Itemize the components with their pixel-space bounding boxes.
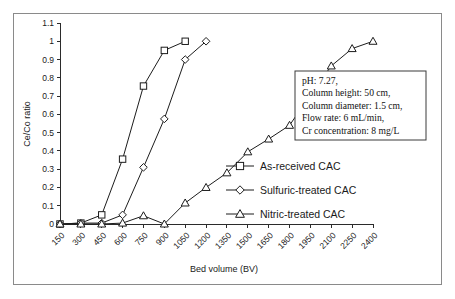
x-tick-label: 2100 — [317, 230, 338, 251]
annotation-line: Flow rate: 6 mL/min, — [302, 112, 384, 123]
y-tick-label: 0.7 — [42, 91, 54, 101]
x-tick-label: 1200 — [192, 230, 213, 251]
legend-item-1: As-received CAC — [226, 160, 341, 172]
y-tick-label: 0.9 — [42, 55, 54, 65]
y-tick-label: 0.4 — [42, 146, 54, 156]
y-tick-label: 0.3 — [42, 164, 54, 174]
legend-marker — [236, 186, 244, 194]
x-tick-label: 600 — [112, 230, 129, 247]
y-tick-label: 0.1 — [42, 201, 54, 211]
series-1 — [57, 38, 189, 227]
y-tick-label: 1 — [49, 36, 54, 46]
data-point-marker — [119, 211, 127, 219]
data-point-marker — [202, 183, 210, 190]
legend-label: Sulfuric-treated CAC — [260, 184, 357, 196]
x-tick-label: 2400 — [359, 230, 380, 251]
y-tick-label: 0 — [49, 219, 54, 229]
legend-label: Nitric-treated CAC — [260, 208, 346, 220]
x-tick-label: 900 — [154, 230, 171, 247]
x-tick-label: 150 — [49, 230, 66, 247]
data-point-marker — [182, 38, 188, 44]
x-tick-label: 1650 — [255, 230, 276, 251]
data-point-marker — [286, 121, 294, 128]
x-tick-label: 2250 — [338, 230, 359, 251]
x-tick-label: 1050 — [171, 230, 192, 251]
legend-label: As-received CAC — [260, 160, 341, 172]
x-tick-label: 450 — [91, 230, 108, 247]
y-tick-label: 0.8 — [42, 73, 54, 83]
y-axis-tick-labels: 00.10.20.30.40.50.60.70.80.911.1 — [42, 18, 54, 229]
data-point-marker — [161, 115, 169, 123]
data-point-marker — [161, 47, 167, 53]
data-point-marker — [140, 83, 146, 89]
y-tick-label: 0.6 — [42, 109, 54, 119]
data-point-marker — [119, 156, 125, 162]
experimental-conditions-box: pH: 7.27,Column height: 50 cm,Column dia… — [295, 71, 426, 140]
y-tick-label: 1.1 — [42, 18, 54, 28]
y-axis-title: Ce/Co ratio — [22, 101, 32, 147]
annotation-line: Cr concentration: 8 mg/L — [302, 125, 399, 136]
x-tick-label: 1950 — [296, 230, 317, 251]
chart-figure: 00.10.20.30.40.50.60.70.80.911.1 1503004… — [13, 13, 442, 285]
annotation-line: pH: 7.27, — [302, 75, 338, 86]
x-axis-ticks — [60, 224, 373, 228]
series-line — [60, 41, 206, 224]
annotation-line: Column height: 50 cm, — [302, 87, 390, 98]
data-point-marker — [369, 37, 377, 44]
series-line — [60, 41, 185, 224]
y-tick-label: 0.2 — [42, 182, 54, 192]
legend-item-3: Nitric-treated CAC — [226, 208, 346, 220]
x-tick-label: 1500 — [234, 230, 255, 251]
data-point-marker — [181, 199, 189, 206]
chart-legend: As-received CACSulfuric-treated CACNitri… — [226, 160, 357, 220]
x-axis-title: Bed volume (BV) — [190, 264, 258, 274]
series-2 — [56, 37, 210, 227]
chart-plot-area: 00.10.20.30.40.50.60.70.80.911.1 1503004… — [14, 14, 441, 284]
legend-marker — [236, 210, 245, 218]
x-tick-label: 1800 — [275, 230, 296, 251]
data-point-marker — [140, 164, 148, 172]
data-point-marker — [99, 212, 105, 218]
x-tick-label: 300 — [70, 230, 87, 247]
y-tick-label: 0.5 — [42, 128, 54, 138]
data-point-marker — [244, 148, 252, 155]
x-tick-label: 1350 — [213, 230, 234, 251]
data-point-marker — [265, 135, 273, 142]
x-tick-label: 750 — [133, 230, 150, 247]
annotation-line: Column diameter: 1.5 cm, — [302, 100, 402, 111]
data-point-marker — [139, 212, 147, 219]
x-axis-tick-labels: 1503004506007509001050120013501500165018… — [49, 230, 379, 251]
legend-item-2: Sulfuric-treated CAC — [226, 184, 357, 196]
legend-marker — [236, 162, 243, 169]
